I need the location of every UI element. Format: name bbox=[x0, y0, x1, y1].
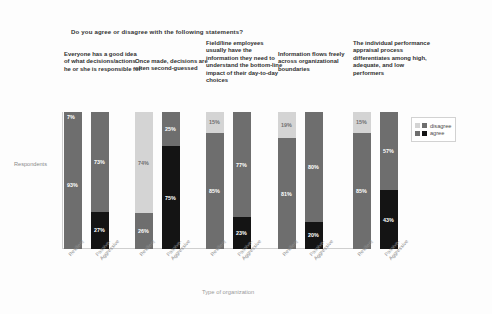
stacked-bar[interactable]: 73%27% bbox=[91, 112, 109, 249]
segment-value-label: 43% bbox=[383, 217, 394, 223]
bar-segment-disagree[interactable]: 77% bbox=[233, 112, 251, 217]
bar-segment-disagree[interactable]: 74% bbox=[135, 112, 153, 213]
segment-value-label: 15% bbox=[356, 119, 367, 125]
bar-segment-disagree[interactable]: 19% bbox=[278, 112, 296, 138]
bar-segment-disagree[interactable]: 15% bbox=[353, 112, 371, 133]
stacked-bar[interactable]: 57%43% bbox=[380, 112, 398, 249]
statement-label: Everyone has a good idea of what decisio… bbox=[64, 51, 142, 73]
segment-value-label: 85% bbox=[356, 188, 367, 194]
bar-segment-agree[interactable]: 75% bbox=[162, 146, 180, 249]
chart-legend: disagreeagree bbox=[411, 117, 456, 142]
stacked-bar[interactable]: 80%20% bbox=[305, 112, 323, 249]
chart-figure: Do you agree or disagree with the follow… bbox=[0, 0, 492, 314]
chart-title: Do you agree or disagree with the follow… bbox=[71, 28, 243, 35]
segment-value-label: 26% bbox=[138, 228, 149, 234]
bar-segment-disagree[interactable]: 57% bbox=[380, 112, 398, 190]
stacked-bar[interactable]: 19%81% bbox=[278, 112, 296, 249]
segment-value-label: 93% bbox=[67, 182, 78, 188]
legend-swatch bbox=[422, 123, 427, 128]
segment-value-label: 19% bbox=[281, 122, 292, 128]
segment-value-label: 15% bbox=[209, 119, 220, 125]
y-axis-label: Respondents bbox=[14, 161, 47, 167]
bar-segment-agree[interactable]: 85% bbox=[353, 133, 371, 249]
segment-value-label: 85% bbox=[209, 188, 220, 194]
stacked-bar[interactable]: 77%23% bbox=[233, 112, 251, 249]
stacked-bar[interactable]: 15%85% bbox=[206, 112, 224, 249]
legend-item[interactable]: disagree bbox=[415, 123, 451, 129]
bar-segment-agree[interactable]: 85% bbox=[206, 133, 224, 249]
stacked-bar[interactable]: 74%26% bbox=[135, 112, 153, 249]
legend-label: agree bbox=[430, 130, 444, 136]
bar-segment-disagree[interactable]: 80% bbox=[305, 112, 323, 222]
segment-value-label: 23% bbox=[236, 230, 247, 236]
segment-value-label: 80% bbox=[308, 164, 319, 170]
legend-item[interactable]: agree bbox=[415, 130, 451, 136]
stacked-bar[interactable]: 25%75% bbox=[162, 112, 180, 249]
segment-value-label: 57% bbox=[383, 148, 394, 154]
segment-value-label: 75% bbox=[165, 195, 176, 201]
segment-value-label: 20% bbox=[308, 232, 319, 238]
stacked-bar[interactable]: 7%93% bbox=[64, 112, 82, 249]
legend-swatch bbox=[415, 131, 420, 136]
bar-segment-disagree[interactable]: 73% bbox=[91, 112, 109, 212]
segment-value-label: 81% bbox=[281, 191, 292, 197]
bar-segment-disagree[interactable]: 15% bbox=[206, 112, 224, 133]
segment-value-label: 25% bbox=[165, 126, 176, 132]
statement-label: Field/line employees usually have the in… bbox=[206, 40, 284, 84]
segment-value-label: 73% bbox=[94, 159, 105, 165]
statement-label: Once made, decisions are often second-gu… bbox=[135, 58, 213, 73]
stacked-bar[interactable]: 15%85% bbox=[353, 112, 371, 249]
segment-value-label: 27% bbox=[94, 227, 105, 233]
bar-segment-disagree[interactable]: 25% bbox=[162, 112, 180, 146]
bar-segment-agree[interactable]: 93% bbox=[64, 122, 82, 249]
legend-label: disagree bbox=[430, 123, 451, 129]
legend-swatch bbox=[422, 131, 427, 136]
segment-value-label: 7% bbox=[67, 114, 75, 120]
plot-area: Everyone has a good idea of what decisio… bbox=[62, 112, 408, 249]
bar-segment-agree[interactable]: 81% bbox=[278, 138, 296, 249]
statement-label: The individual performance appraisal pro… bbox=[353, 40, 431, 77]
segment-value-label: 77% bbox=[236, 162, 247, 168]
bar-segment-disagree[interactable]: 7% bbox=[64, 112, 82, 122]
x-axis-label: Type of organization bbox=[202, 289, 254, 295]
statement-label: Information flows freely across organiza… bbox=[278, 51, 356, 73]
legend-swatch bbox=[415, 123, 420, 128]
segment-value-label: 74% bbox=[138, 160, 149, 166]
